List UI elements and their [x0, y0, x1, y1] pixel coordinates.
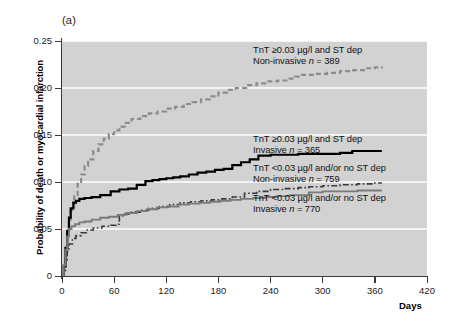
legend-line-secondary: Invasive n = 770: [253, 204, 386, 215]
x-tick-mark: [218, 277, 219, 283]
y-tick-label: 0.15: [22, 129, 52, 140]
y-tick-label-text: 0: [22, 270, 52, 281]
x-tick-mark: [427, 277, 428, 283]
y-tick-label-text: 0.10: [22, 176, 52, 187]
legend-n-value: = 365: [294, 145, 320, 155]
y-tick-label-text: 0.05: [22, 223, 52, 234]
legend-line-primary: TnT ≥0.03 µg/l and ST dep: [253, 134, 362, 145]
x-tick-mark: [114, 277, 115, 283]
x-tick-mark: [166, 277, 167, 283]
legend-line-primary: TnT <0.03 µg/l and/or no ST dep: [253, 193, 386, 204]
legend-arm-label: Invasive: [253, 145, 289, 155]
legend-entry-3: TnT <0.03 µg/l and/or no ST depNon-invas…: [253, 163, 386, 186]
x-tick-mark: [322, 277, 323, 283]
x-tick-label: 420: [407, 285, 447, 296]
x-axis-line: [61, 276, 428, 277]
legend-arm-label: Non-invasive: [253, 56, 309, 66]
x-tick-label: 240: [251, 285, 291, 296]
x-tick-mark: [270, 277, 271, 283]
y-tick-label: 0.10: [22, 176, 52, 187]
x-tick-label: 0: [42, 285, 82, 296]
legend-entry-1: TnT ≥0.03 µg/l and ST depNon-invasive n …: [253, 45, 362, 68]
legend-line-primary: TnT ≥0.03 µg/l and ST dep: [253, 45, 362, 56]
x-tick-mark: [374, 277, 375, 283]
x-tick-label: 120: [146, 285, 186, 296]
y-tick-mark: [55, 135, 62, 136]
figure-panel-a: (a) Probability of death or myocardial i…: [0, 0, 449, 330]
legend-n-value: = 389: [314, 56, 340, 66]
legend-arm-label: Invasive: [253, 204, 289, 214]
y-tick-mark: [55, 182, 62, 183]
legend-n-value: = 770: [294, 204, 320, 214]
x-tick-label: 300: [303, 285, 343, 296]
x-tick-label: 360: [355, 285, 395, 296]
y-tick-label: 0: [22, 270, 52, 281]
y-tick-mark: [55, 41, 62, 42]
x-tick-mark: [62, 277, 63, 283]
legend-entry-4: TnT <0.03 µg/l and/or no ST depInvasive …: [253, 193, 386, 216]
legend-line-primary: TnT <0.03 µg/l and/or no ST dep: [253, 163, 386, 174]
y-tick-label-text: 0.25: [22, 35, 52, 46]
x-tick-label: 60: [94, 285, 134, 296]
legend-line-secondary: Non-invasive n = 759: [253, 174, 386, 185]
y-tick-mark: [55, 229, 62, 230]
y-tick-label-text: 0.15: [22, 129, 52, 140]
legend-arm-label: Non-invasive: [253, 174, 309, 184]
y-tick-label: 0.05: [22, 223, 52, 234]
y-tick-label: 0.20: [22, 82, 52, 93]
legend-n-value: = 759: [314, 174, 340, 184]
legend-line-secondary: Invasive n = 365: [253, 145, 362, 156]
y-tick-mark: [55, 88, 62, 89]
y-axis-line: [61, 38, 62, 279]
y-tick-label: 0.25: [22, 35, 52, 46]
legend-line-secondary: Non-invasive n = 389: [253, 56, 362, 67]
legend-entry-2: TnT ≥0.03 µg/l and ST depInvasive n = 36…: [253, 134, 362, 157]
y-tick-label-text: 0.20: [22, 82, 52, 93]
x-tick-label: 180: [198, 285, 238, 296]
